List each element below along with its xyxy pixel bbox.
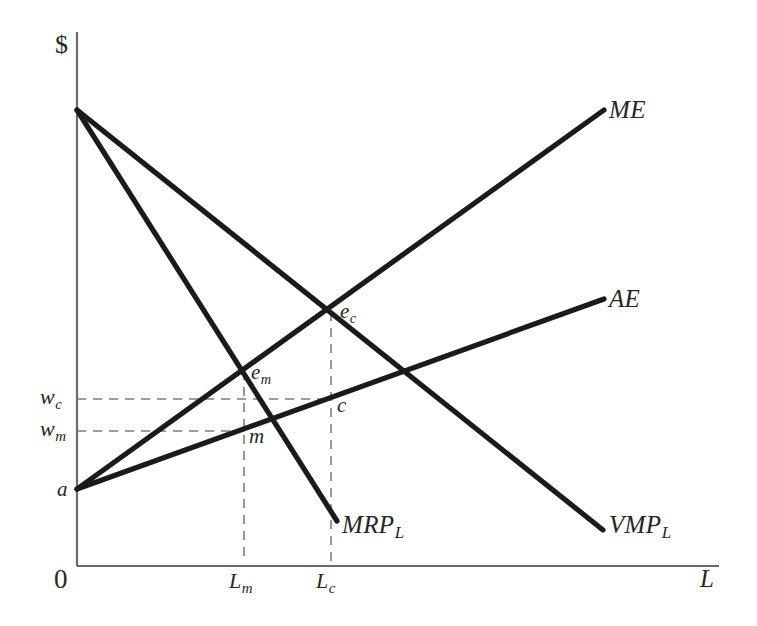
curve-label-mrp-l: MRPL: [342, 512, 405, 541]
axis-tick-lm: Lm: [229, 570, 253, 596]
figure-canvas: $ L 0 ME AE MRPL VMPL ec em c m a wc wm …: [0, 0, 757, 626]
x-axis-label: L: [700, 566, 714, 591]
axis-tick-lc: Lc: [316, 570, 335, 596]
origin-label: 0: [54, 566, 68, 593]
point-label-em: em: [251, 362, 271, 386]
point-label-m: m: [249, 426, 264, 447]
point-label-c: c: [337, 395, 346, 416]
axis-tick-wc: wc: [40, 386, 62, 412]
curve-label-ae: AE: [609, 286, 640, 311]
point-label-a: a: [57, 479, 68, 500]
y-axis-label: $: [55, 32, 68, 58]
point-label-ec: ec: [340, 301, 356, 325]
curve-label-vmp-l: VMPL: [609, 512, 672, 541]
axis-tick-wm: wm: [40, 418, 66, 444]
curve-label-me: ME: [609, 97, 646, 122]
